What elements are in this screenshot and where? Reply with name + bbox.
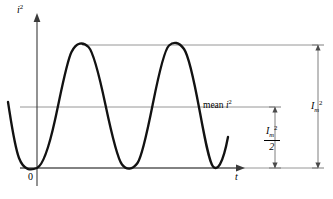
y-axis-arrowhead-icon [34, 13, 41, 22]
peak-value-label-exponent: 2 [319, 99, 322, 106]
half-peak-fraction: Im2 2 [264, 125, 280, 152]
mean-level-label-text: mean [203, 100, 226, 110]
half-peak-fraction-numerator: Im2 [264, 125, 280, 140]
half-peak-numerator-exponent: 2 [274, 124, 277, 131]
y-axis-label-exponent: 2 [20, 3, 23, 10]
mean-level-label-exponent: 2 [229, 98, 232, 105]
half-peak-value-label: Im2 2 [264, 125, 280, 152]
mean-level-label: mean i2 [203, 99, 232, 111]
peak-value-label: Im2 [311, 100, 323, 114]
x-axis-label: t [235, 172, 238, 182]
waveform-plot [0, 0, 333, 199]
half-peak-numerator-subscript: m [269, 131, 274, 138]
figure-container: i2 t 0 mean i2 Im2 Im2 2 [0, 0, 333, 199]
squared-current-curve [8, 43, 228, 170]
origin-label: 0 [28, 172, 33, 182]
half-peak-fraction-denominator: 2 [264, 141, 280, 152]
y-axis-label: i2 [17, 4, 23, 15]
peak-value-label-subscript: m [314, 106, 319, 113]
